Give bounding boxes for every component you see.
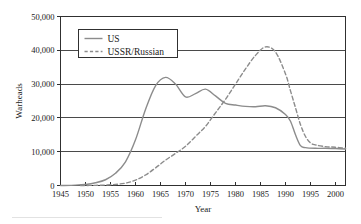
chart-title-sliver bbox=[0, 0, 361, 4]
x-tick-label: 1985 bbox=[252, 189, 269, 199]
y-tick-label: 20,000 bbox=[31, 113, 54, 123]
data-series bbox=[61, 47, 346, 186]
y-tick-label: 40,000 bbox=[31, 45, 54, 55]
series-line-ussr-russian bbox=[81, 47, 346, 186]
x-tick-label: 1950 bbox=[77, 189, 94, 199]
x-axis-ticks: 1945195019551960196519701975198019851990… bbox=[52, 182, 344, 200]
y-tick-label: 10,000 bbox=[31, 147, 54, 157]
x-tick-label: 1945 bbox=[52, 189, 69, 199]
y-axis-ticks: 010,00020,00030,00040,00050,000 bbox=[31, 12, 60, 191]
x-tick-label: 1975 bbox=[202, 189, 219, 199]
y-axis-label: Warheads bbox=[14, 83, 24, 119]
page-rule-artifact bbox=[12, 217, 162, 218]
chart-figure: 010,00020,00030,00040,00050,000 19451950… bbox=[0, 0, 361, 224]
legend-label-ussr-russian: USSR/Russian bbox=[108, 47, 165, 57]
x-tick-label: 2000 bbox=[327, 189, 344, 199]
x-tick-label: 1990 bbox=[277, 189, 294, 199]
warheads-line-chart: 010,00020,00030,00040,00050,000 19451950… bbox=[0, 0, 361, 224]
legend-label-us: US bbox=[108, 34, 120, 44]
chart-legend: USUSSR/Russian bbox=[79, 30, 178, 58]
x-tick-label: 1960 bbox=[127, 189, 144, 199]
gridlines bbox=[61, 50, 346, 151]
x-tick-label: 1995 bbox=[302, 189, 319, 199]
x-tick-label: 1980 bbox=[227, 189, 244, 199]
x-tick-label: 1970 bbox=[177, 189, 194, 199]
y-tick-label: 30,000 bbox=[31, 79, 54, 89]
x-tick-label: 1955 bbox=[102, 189, 119, 199]
x-tick-label: 1965 bbox=[152, 189, 169, 199]
y-tick-label: 50,000 bbox=[31, 12, 54, 22]
x-axis-label: Year bbox=[195, 204, 212, 214]
